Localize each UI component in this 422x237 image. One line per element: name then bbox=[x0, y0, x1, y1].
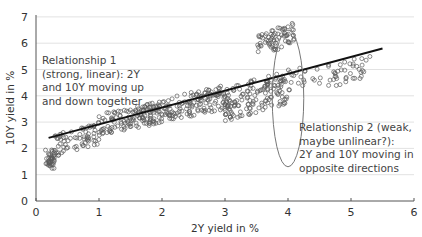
annotation-relationship-1: Relationship 1 (strong, linear): 2Y and … bbox=[42, 54, 147, 107]
y-tick-label: 3 bbox=[21, 116, 28, 129]
scatter-chart: 0123456 01234567 2Y yield in % 10Y yield… bbox=[0, 0, 422, 237]
annotation-1-line-4: and down together bbox=[42, 95, 143, 107]
y-tick-label: 2 bbox=[21, 142, 28, 155]
y-axis-label: 10Y yield in % bbox=[4, 71, 16, 146]
annotation-1-line-2: (strong, linear): 2Y bbox=[42, 68, 141, 80]
y-axis-ticks: 01234567 bbox=[21, 11, 28, 208]
x-tick-label: 3 bbox=[222, 206, 229, 219]
annotation-2-line-1: Relationship 2 (weak, bbox=[299, 121, 412, 133]
annotation-1-line-3: and 10Y moving up bbox=[42, 81, 144, 93]
x-axis-label: 2Y yield in % bbox=[191, 222, 259, 234]
x-tick-label: 4 bbox=[285, 206, 292, 219]
y-tick-label: 7 bbox=[21, 11, 28, 24]
annotation-2-line-4: opposite directions bbox=[299, 162, 399, 174]
annotation-relationship-2: Relationship 2 (weak, maybe unlinear?): … bbox=[299, 121, 417, 174]
annotation-2-line-2: maybe unlinear?): bbox=[299, 135, 395, 147]
y-tick-label: 0 bbox=[21, 195, 28, 208]
x-tick-label: 6 bbox=[411, 206, 418, 219]
y-tick-label: 6 bbox=[21, 37, 28, 50]
x-tick-label: 5 bbox=[348, 206, 355, 219]
annotation-1-line-1: Relationship 1 bbox=[42, 54, 116, 66]
y-tick-label: 1 bbox=[21, 169, 28, 182]
y-tick-label: 5 bbox=[21, 64, 28, 77]
x-tick-label: 2 bbox=[159, 206, 166, 219]
y-tick-label: 4 bbox=[21, 90, 28, 103]
x-tick-label: 0 bbox=[33, 206, 40, 219]
x-tick-label: 1 bbox=[96, 206, 103, 219]
annotation-2-line-3: 2Y and 10Y moving in bbox=[299, 148, 414, 160]
